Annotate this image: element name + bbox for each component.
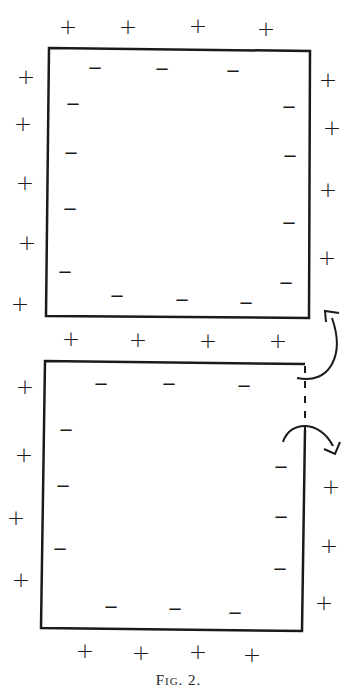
minus-charge-top-square-left: −: [65, 95, 80, 113]
figure-diagram: [0, 0, 357, 699]
plus-charge-top-square-left: +: [11, 293, 29, 315]
bottom-square: [41, 361, 305, 631]
minus-charge-top-square-left: −: [63, 144, 78, 162]
minus-charge-top-square-top: −: [225, 62, 240, 80]
minus-charge-top-square-bottom: −: [238, 294, 253, 312]
plus-charge-bottom-square-right: +: [320, 535, 338, 557]
minus-charge-bottom-square-top: −: [93, 375, 108, 393]
plus-charge-bottom-square-right: +: [322, 476, 340, 498]
plus-charge-top-square-bottom: +: [62, 328, 80, 350]
minus-charge-bottom-square-top: −: [236, 377, 251, 395]
top-square: [46, 48, 310, 318]
minus-charge-bottom-square-bottom: −: [227, 604, 242, 622]
minus-charge-top-square-right: −: [281, 98, 296, 116]
plus-charge-bottom-square-left: +: [7, 507, 25, 529]
plus-charge-top-square-right: +: [318, 247, 336, 269]
plus-charge-bottom-square-bottom: +: [243, 644, 261, 666]
plus-charge-bottom-square-right: +: [315, 592, 333, 614]
plus-charge-top-square-top: +: [59, 16, 77, 38]
minus-charge-top-square-right: −: [278, 274, 293, 292]
minus-charge-bottom-square-left: −: [58, 421, 73, 439]
plus-charge-bottom-square-left: +: [16, 376, 34, 398]
plus-charge-top-square-left: +: [16, 172, 34, 194]
minus-charge-top-square-right: −: [281, 214, 296, 232]
plus-charge-top-square-right: +: [319, 179, 337, 201]
plus-charge-top-square-left: +: [17, 66, 35, 88]
minus-charge-bottom-square-left: −: [52, 540, 67, 558]
minus-charge-top-square-bottom: −: [109, 287, 124, 305]
plus-charge-top-square-top: +: [119, 16, 137, 38]
minus-charge-top-square-bottom: −: [174, 291, 189, 309]
minus-charge-bottom-square-right: −: [273, 458, 288, 476]
minus-charge-top-square-right: −: [282, 147, 297, 165]
plus-charge-top-square-bottom: +: [269, 330, 287, 352]
minus-charge-bottom-square-right: −: [272, 560, 287, 578]
curved-arrow-down-icon: [283, 426, 333, 446]
plus-charge-top-square-left: +: [14, 113, 32, 135]
plus-charge-top-square-right: +: [323, 117, 341, 139]
minus-charge-bottom-square-left: −: [55, 477, 70, 495]
plus-charge-top-square-top: +: [257, 18, 275, 40]
plus-charge-top-square-left: +: [18, 232, 36, 254]
curved-arrow-up-icon: [297, 318, 337, 379]
plus-charge-top-square-top: +: [189, 15, 207, 37]
figure-caption: Fig. 2.: [0, 672, 357, 689]
plus-charge-top-square-right: +: [319, 69, 337, 91]
plus-charge-bottom-square-bottom: +: [76, 640, 94, 662]
plus-charge-bottom-square-left: +: [15, 444, 33, 466]
plus-charge-top-square-bottom: +: [199, 330, 217, 352]
minus-charge-bottom-square-bottom: −: [103, 598, 118, 616]
minus-charge-bottom-square-right: −: [273, 508, 288, 526]
minus-charge-bottom-square-top: −: [161, 375, 176, 393]
minus-charge-top-square-top: −: [87, 59, 102, 77]
minus-charge-top-square-left: −: [62, 200, 77, 218]
plus-charge-bottom-square-bottom: +: [189, 641, 207, 663]
minus-charge-bottom-square-bottom: −: [167, 600, 182, 618]
minus-charge-top-square-top: −: [154, 60, 169, 78]
plus-charge-bottom-square-left: +: [12, 569, 30, 591]
plus-charge-top-square-bottom: +: [129, 329, 147, 351]
minus-charge-top-square-left: −: [57, 263, 72, 281]
plus-charge-bottom-square-bottom: +: [132, 642, 150, 664]
